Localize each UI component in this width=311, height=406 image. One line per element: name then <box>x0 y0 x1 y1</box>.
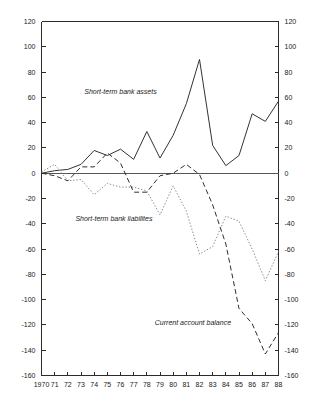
y-tick-label-left: -160 <box>21 372 35 379</box>
chart-container: 120100806040200-20-40-60-80-100-120-140-… <box>0 0 311 406</box>
y-tick-label-left: 120 <box>24 18 36 25</box>
x-tick-label: 74 <box>90 381 98 388</box>
series-label-0: Short-term bank assets <box>84 88 157 95</box>
y-tick-label-left: -40 <box>25 220 35 227</box>
x-tick-label: 79 <box>156 381 164 388</box>
y-tick-label-left: -60 <box>25 246 35 253</box>
y-tick-label-right: 120 <box>285 18 297 25</box>
series-label-1: Short-term bank liabilites <box>75 215 153 222</box>
x-tick-label: 88 <box>275 381 283 388</box>
y-tick-label-right: -140 <box>285 347 299 354</box>
y-tick-label-right: -20 <box>285 195 295 202</box>
x-tick-label: 80 <box>169 381 177 388</box>
y-tick-label-left: -20 <box>25 195 35 202</box>
x-tick-label: 76 <box>117 381 125 388</box>
x-tick-label: 77 <box>130 381 138 388</box>
x-tick-label: 87 <box>261 381 269 388</box>
y-tick-label-right: 0 <box>285 170 289 177</box>
y-tick-label-right: -120 <box>285 321 299 328</box>
x-tick-label: 73 <box>77 381 85 388</box>
y-tick-label-left: 80 <box>28 69 36 76</box>
y-tick-label-right: 60 <box>285 94 293 101</box>
x-tick-label: 78 <box>143 381 151 388</box>
x-tick-label: 72 <box>64 381 72 388</box>
series-line-1 <box>42 164 279 280</box>
y-tick-label-left: -80 <box>25 271 35 278</box>
series-annotations: Short-term bank assetsShort-term bank li… <box>75 88 231 326</box>
x-tick-label: 82 <box>196 381 204 388</box>
y-tick-label-left: 60 <box>28 94 36 101</box>
x-axis-tick-labels: 1970717273747576777879808182838485868788 <box>34 381 283 388</box>
y-tick-label-right: 100 <box>285 43 297 50</box>
x-tick-label: 75 <box>103 381 111 388</box>
y-tick-label-left: 20 <box>28 144 36 151</box>
x-tick-label: 85 <box>235 381 243 388</box>
y-tick-label-right: -100 <box>285 296 299 303</box>
y-tick-label-left: -100 <box>21 296 35 303</box>
y-tick-label-left: -120 <box>21 321 35 328</box>
y-tick-label-left: -140 <box>21 347 35 354</box>
y-tick-label-right: 80 <box>285 69 293 76</box>
line-chart: 120100806040200-20-40-60-80-100-120-140-… <box>0 0 311 406</box>
x-tick-label: 83 <box>209 381 217 388</box>
y-tick-label-right: 20 <box>285 144 293 151</box>
y-tick-label-right: -80 <box>285 271 295 278</box>
y-tick-label-right: -60 <box>285 246 295 253</box>
left-axis-tick-labels: 120100806040200-20-40-60-80-100-120-140-… <box>21 18 35 379</box>
y-tick-label-left: 100 <box>24 43 36 50</box>
x-tick-label: 71 <box>51 381 59 388</box>
y-tick-label-left: 0 <box>32 170 36 177</box>
y-tick-label-left: 40 <box>28 119 36 126</box>
x-tick-label: 86 <box>248 381 256 388</box>
series-label-2: Current account balance <box>155 319 231 326</box>
x-tick-label: 81 <box>182 381 190 388</box>
x-tick-label: 84 <box>222 381 230 388</box>
y-tick-label-right: 40 <box>285 119 293 126</box>
x-tick-label: 1970 <box>34 381 50 388</box>
right-axis-tick-labels: 120100806040200-20-40-60-80-100-120-140-… <box>285 18 299 379</box>
series-line-0 <box>42 59 279 173</box>
y-tick-label-right: -40 <box>285 220 295 227</box>
y-tick-label-right: -160 <box>285 372 299 379</box>
data-series-group <box>42 59 279 354</box>
